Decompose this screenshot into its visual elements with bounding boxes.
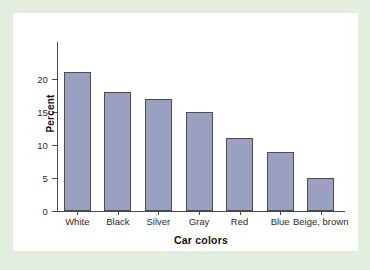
x-tick-mark [199,211,200,215]
bar-red[interactable] [226,138,253,211]
bar-silver[interactable] [145,99,172,211]
x-tick-mark [240,211,241,215]
x-tick-mark [280,211,281,215]
bar-gray[interactable] [186,112,213,211]
y-tick-label: 10 [8,141,48,151]
x-axis-line [57,211,345,212]
y-tick-label: 0 [8,207,48,217]
bar-blue[interactable] [267,152,294,211]
y-tick-mark [52,145,57,146]
y-axis-title: Percent [45,84,56,144]
bar-chart-plot-area: 0 5 10 15 20 White Black Silver Gray Red… [0,0,370,270]
y-tick-mark [52,178,57,179]
bar-white[interactable] [64,72,91,211]
y-tick-label: 5 [8,174,48,184]
bar-black[interactable] [104,92,131,211]
y-axis-line [57,42,58,212]
bar-beige-brown[interactable] [307,178,334,211]
x-category-label: Beige, brown [281,217,361,227]
y-tick-mark [52,79,57,80]
x-axis-title: Car colors [57,234,345,246]
x-tick-mark [321,211,322,215]
x-tick-mark [77,211,78,215]
y-tick-label: 15 [8,108,48,118]
y-tick-label: 20 [8,75,48,85]
x-tick-mark [158,211,159,215]
x-tick-mark [118,211,119,215]
figure-root: 0 5 10 15 20 White Black Silver Gray Red… [0,0,370,270]
y-tick-mark [52,211,57,212]
